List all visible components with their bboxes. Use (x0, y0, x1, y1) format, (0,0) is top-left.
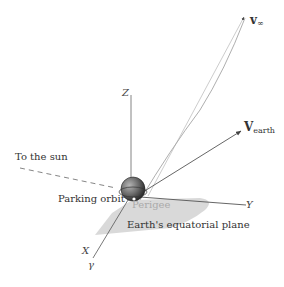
orbit-diagram (0, 0, 284, 287)
sun-direction-line (20, 168, 116, 188)
v-infinity-label: v∞ (250, 14, 264, 28)
perigee-label: Perigee (132, 200, 170, 210)
y-axis-label: Y (246, 200, 253, 210)
v-earth-vector (135, 131, 241, 197)
parking-orbit-label: Parking orbit (58, 194, 125, 204)
equatorial-plane-label: Earth's equatorial plane (127, 220, 250, 230)
v-earth-symbol: V (244, 120, 253, 134)
x-axis-label: X (82, 246, 89, 256)
z-axis-label: Z (122, 88, 129, 98)
vernal-equinox-label: γ (88, 260, 94, 270)
v-earth-subscript: earth (253, 126, 275, 135)
v-infinity-asymptote (148, 17, 244, 196)
sun-direction-label: To the sun (15, 152, 68, 162)
v-infinity-subscript: ∞ (257, 19, 264, 28)
departure-trajectory (140, 18, 245, 200)
v-earth-label: Vearth (244, 121, 275, 135)
v-infinity-symbol: v (250, 13, 257, 27)
